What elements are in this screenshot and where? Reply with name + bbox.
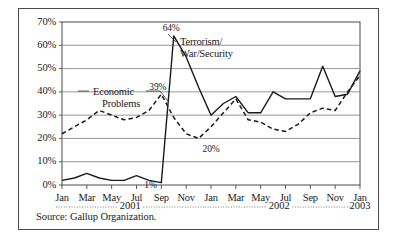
y-axis-tick-label: 60% [22,40,56,50]
series-label-terrorism-line2: War/Security [180,48,233,59]
series-label-economic-line1: Economic [93,86,134,97]
x-axis-ticks [62,185,360,189]
y-axis-tick-label: 70% [22,17,56,27]
series-label-terrorism: Terrorism/ War/Security [180,36,233,59]
y-axis-tick-label: 20% [22,133,56,143]
data-point-annotation: 39% [149,82,166,92]
y-axis-tick-label: 10% [22,156,56,166]
y-axis-tick-label: 30% [22,110,56,120]
year-label: 2001 [112,200,148,211]
series-label-terrorism-line1: Terrorism/ [180,36,222,47]
y-axis-tick-label: 40% [22,86,56,96]
year-label: 2003 [342,200,378,211]
series-label-economic: Economic Problems [93,86,140,109]
year-label: 2002 [261,200,297,211]
chart-figure: 0%10%20%30%40%50%60%70% JanMarMayJulSepN… [0,0,398,248]
data-point-annotation: 1% [144,180,156,190]
data-point-annotation: 64% [163,23,180,33]
y-axis-tick-label: 50% [22,63,56,73]
data-point-annotation: 20% [203,144,220,154]
source-note: Source: Gallup Organization. [36,211,156,223]
series-label-economic-line2: Problems [102,98,140,110]
y-axis-tick-label: 0% [22,180,56,190]
